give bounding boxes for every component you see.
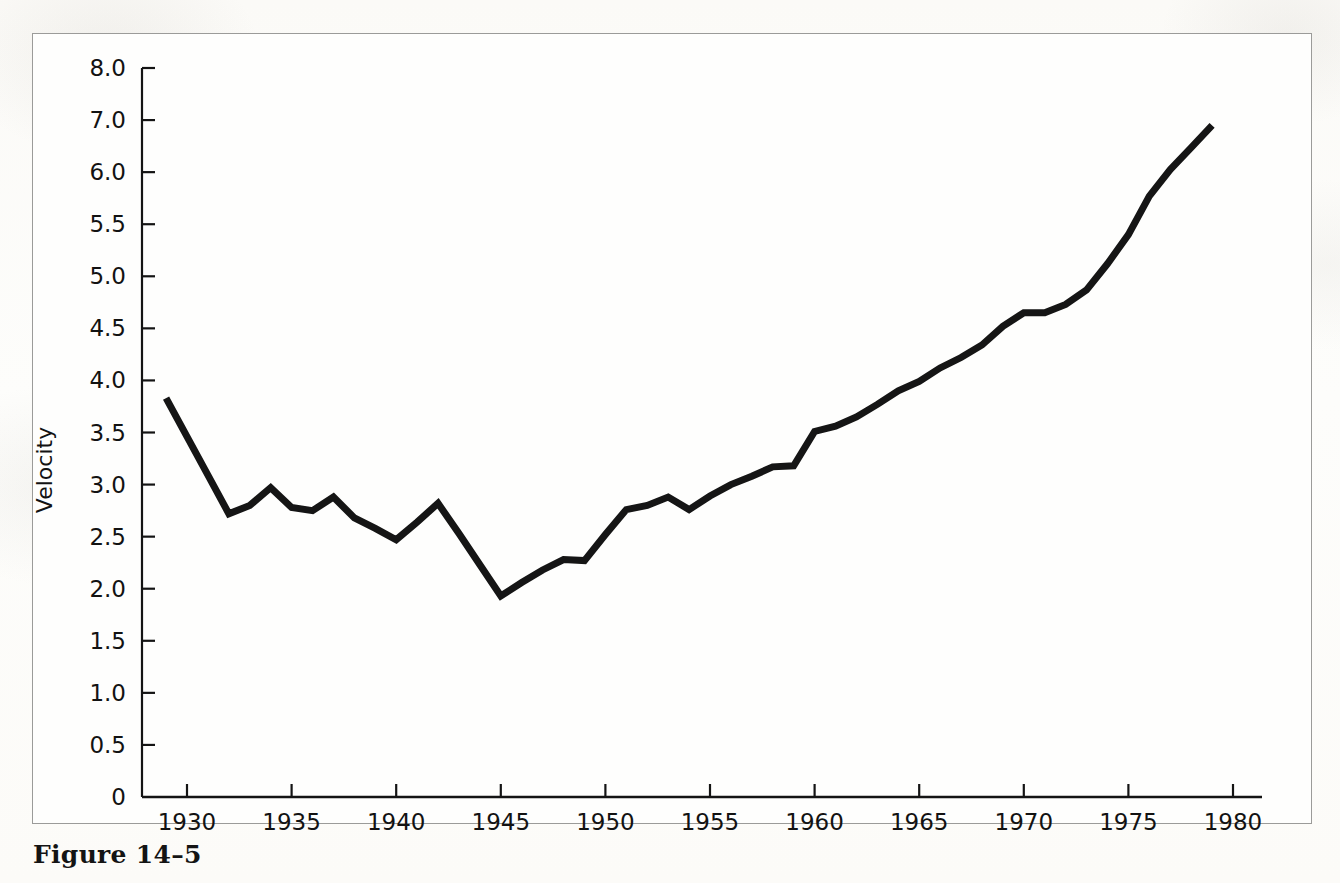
x-axis-tick-label: 1970 — [995, 809, 1054, 835]
x-axis-tick-label: 1935 — [262, 809, 321, 835]
y-axis-tick-label: 5.5 — [89, 211, 126, 237]
y-axis-tick-label: 4.0 — [89, 367, 126, 393]
y-axis-tick-label: 0 — [111, 784, 126, 810]
x-axis-tick-label: 1960 — [785, 809, 844, 835]
x-axis-tick-label: 1975 — [1099, 809, 1158, 835]
velocity-line-chart: 00.51.01.52.02.53.03.54.04.55.05.56.07.0… — [0, 0, 1340, 840]
y-axis-tick-label: 2.0 — [89, 576, 126, 602]
y-axis-tick-label: 3.0 — [89, 472, 126, 498]
x-axis: 1930193519401945195019551960196519701975… — [142, 784, 1262, 835]
y-axis-title: Velocity — [32, 427, 57, 513]
x-axis-tick-label: 1940 — [367, 809, 426, 835]
velocity-data-line — [166, 125, 1212, 596]
y-axis-tick-label: 7.0 — [89, 107, 126, 133]
x-axis-tick-label: 1950 — [576, 809, 635, 835]
figure-caption: Figure 14–5 — [33, 840, 202, 869]
y-axis-tick-label: 0.5 — [89, 732, 126, 758]
y-axis-tick-label: 5.0 — [89, 263, 126, 289]
x-axis-tick-label: 1965 — [890, 809, 949, 835]
y-axis: 00.51.01.52.02.53.03.54.04.55.05.56.07.0… — [89, 55, 155, 810]
y-axis-tick-label: 6.0 — [89, 159, 126, 185]
y-axis-tick-label: 1.0 — [89, 680, 126, 706]
y-axis-tick-label: 2.5 — [89, 524, 126, 550]
velocity-series — [166, 125, 1212, 596]
y-axis-tick-label: 8.0 — [89, 55, 126, 81]
x-axis-tick-label: 1980 — [1204, 809, 1263, 835]
x-axis-tick-label: 1945 — [472, 809, 531, 835]
y-axis-tick-label: 4.5 — [89, 315, 126, 341]
x-axis-tick-label: 1930 — [158, 809, 217, 835]
x-axis-tick-label: 1955 — [681, 809, 740, 835]
y-axis-tick-label: 3.5 — [89, 420, 126, 446]
figure-page: 00.51.01.52.02.53.03.54.04.55.05.56.07.0… — [0, 0, 1340, 883]
y-axis-tick-label: 1.5 — [89, 628, 126, 654]
